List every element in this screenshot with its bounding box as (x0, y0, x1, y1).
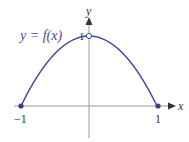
point-right-closed (155, 103, 160, 108)
point-top-open (86, 33, 91, 38)
function-graph: y x −1 1 1 y = f(x) (0, 0, 189, 142)
tick-label-pos1: 1 (155, 112, 161, 126)
function-label: y = f(x) (18, 28, 62, 44)
y-axis-label: y (85, 4, 92, 18)
tick-label-neg1: −1 (14, 112, 27, 126)
y-axis-arrow-icon (86, 17, 93, 25)
point-left-closed (18, 103, 23, 108)
tick-label-y1: 1 (79, 30, 85, 42)
x-axis-label: x (177, 99, 184, 113)
x-axis-arrow-icon (168, 103, 176, 110)
